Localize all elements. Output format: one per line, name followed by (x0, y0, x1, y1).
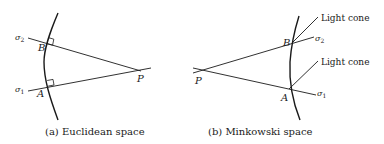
worldline-curve (44, 13, 58, 120)
panel-euclidean: B A P σ2 σ1 (a) Euclidean space (15, 13, 151, 137)
label-a: A (280, 92, 288, 103)
label-p: P (136, 73, 144, 84)
sigma1-line (193, 68, 316, 95)
light-cone-lower-line (289, 61, 318, 89)
label-light-cone-upper: Light cone (321, 13, 369, 23)
worldline-curve (290, 16, 300, 120)
sigma2-line (193, 37, 314, 73)
label-sigma2: σ2 (315, 34, 324, 44)
label-p: P (194, 75, 202, 86)
label-light-cone-lower: Light cone (321, 57, 369, 67)
caption-a: (a) Euclidean space (45, 126, 145, 137)
label-a: A (36, 88, 44, 99)
figure: B A P σ2 σ1 (a) Euclidean space B A P σ2… (0, 0, 384, 144)
label-sigma2: σ2 (15, 33, 24, 43)
caption-b: (b) Minkowski space (208, 126, 313, 137)
label-b: B (282, 37, 290, 48)
panel-minkowski: B A P σ2 σ1 Light cone Light cone (b) Mi… (193, 13, 369, 137)
label-sigma1: σ1 (317, 89, 326, 99)
right-angle-marker-a (47, 79, 54, 86)
label-b: B (37, 42, 45, 53)
label-sigma1: σ1 (15, 85, 24, 95)
